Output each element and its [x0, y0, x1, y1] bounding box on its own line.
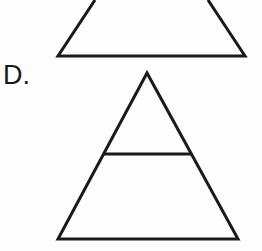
geometry-figure-svg: [0, 0, 262, 251]
partial-trapezoid-top-shape: [58, 0, 245, 56]
triangle-with-divider-outline: [58, 73, 238, 239]
figure-page: D.: [0, 0, 262, 251]
choice-label-d: D.: [3, 60, 30, 90]
